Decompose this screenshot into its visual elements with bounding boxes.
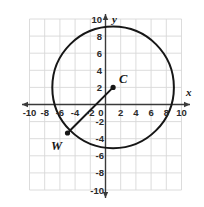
x-tick-4: 4 [133, 107, 139, 118]
y-axis-label: y [110, 13, 117, 25]
y-tick-8: 8 [97, 31, 102, 42]
x-tick--10: -10 [23, 107, 37, 118]
y-tick-2: 2 [97, 82, 102, 93]
x-tick--2: -2 [86, 107, 94, 118]
x-tick--6: -6 [56, 107, 64, 118]
x-tick-6: 6 [148, 107, 153, 118]
point-w-marker [65, 130, 70, 135]
x-axis-label: x [185, 86, 192, 98]
x-tick--8: -8 [40, 107, 48, 118]
y-tick--4: -4 [96, 133, 105, 144]
x-tick-10: 10 [176, 107, 187, 118]
circle-graph-svg: C W x y -10 -8 -6 -4 -2 0 2 4 6 8 10 10 … [0, 0, 204, 207]
y-tick--10: -10 [90, 185, 104, 196]
point-label-w: W [51, 139, 63, 153]
y-tick--8: -8 [96, 167, 104, 178]
y-tick-10: 10 [91, 14, 102, 25]
y-tick--2: -2 [96, 116, 104, 127]
point-c-marker [111, 85, 116, 90]
y-tick--6: -6 [96, 150, 104, 161]
x-tick--4: -4 [71, 107, 80, 118]
y-tick-6: 6 [97, 48, 102, 59]
y-tick-4: 4 [97, 65, 103, 76]
coordinate-plane-figure: C W x y -10 -8 -6 -4 -2 0 2 4 6 8 10 10 … [0, 0, 204, 207]
point-label-c: C [119, 72, 128, 86]
x-tick-8: 8 [164, 107, 169, 118]
x-tick-2: 2 [118, 107, 123, 118]
